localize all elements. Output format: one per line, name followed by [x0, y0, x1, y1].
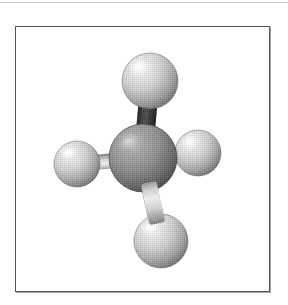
- terminal-atom-left: [54, 141, 100, 187]
- central-atom: [109, 124, 177, 192]
- atom-group: [54, 53, 221, 268]
- figure-frame: [15, 26, 270, 292]
- page-root: [0, 0, 288, 305]
- terminal-atom-right: [175, 130, 221, 176]
- terminal-atom-top: [122, 53, 178, 109]
- top-scan-rule: [0, 2, 288, 3]
- bond-bottom-front-lip: [141, 181, 165, 225]
- molecule-diagram: [16, 27, 269, 291]
